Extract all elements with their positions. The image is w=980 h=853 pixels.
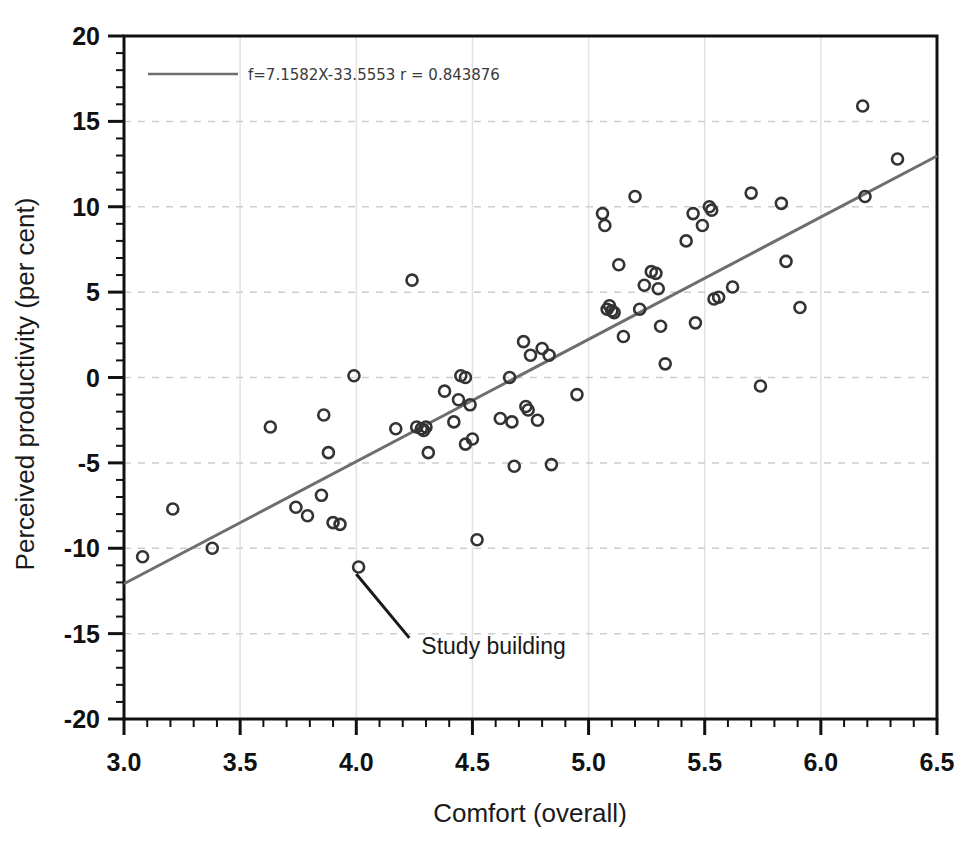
y-tick-label: 10: [72, 193, 100, 221]
y-tick-label: 20: [72, 22, 100, 50]
x-tick-label: 3.0: [107, 748, 142, 776]
y-tick-label: -5: [78, 449, 100, 477]
x-tick-label: 3.5: [223, 748, 258, 776]
y-tick-label: -10: [64, 534, 100, 562]
y-tick-label: -15: [64, 620, 100, 648]
y-axis-title: Perceived productivity (per cent): [10, 198, 40, 571]
legend-equation-label: f=7.1582X-33.5553 r = 0.843876: [248, 66, 500, 84]
x-axis-title: Comfort (overall): [433, 798, 627, 828]
y-tick-label: -20: [64, 705, 100, 733]
x-tick-label: 4.0: [339, 748, 374, 776]
y-tick-label: 15: [72, 107, 100, 135]
y-tick-label: 0: [86, 364, 100, 392]
scatter-plot-figure: 3.03.54.04.55.05.56.06.5 20151050-5-10-1…: [0, 0, 980, 853]
y-tick-label: 5: [86, 278, 100, 306]
annotation-label: Study building: [421, 633, 565, 659]
x-tick-label: 6.5: [920, 748, 955, 776]
x-tick-label: 5.0: [571, 748, 606, 776]
x-tick-label: 4.5: [455, 748, 490, 776]
x-tick-label: 6.0: [803, 748, 838, 776]
x-tick-label: 5.5: [687, 748, 722, 776]
chart-canvas: 3.03.54.04.55.05.56.06.5 20151050-5-10-1…: [0, 0, 980, 853]
